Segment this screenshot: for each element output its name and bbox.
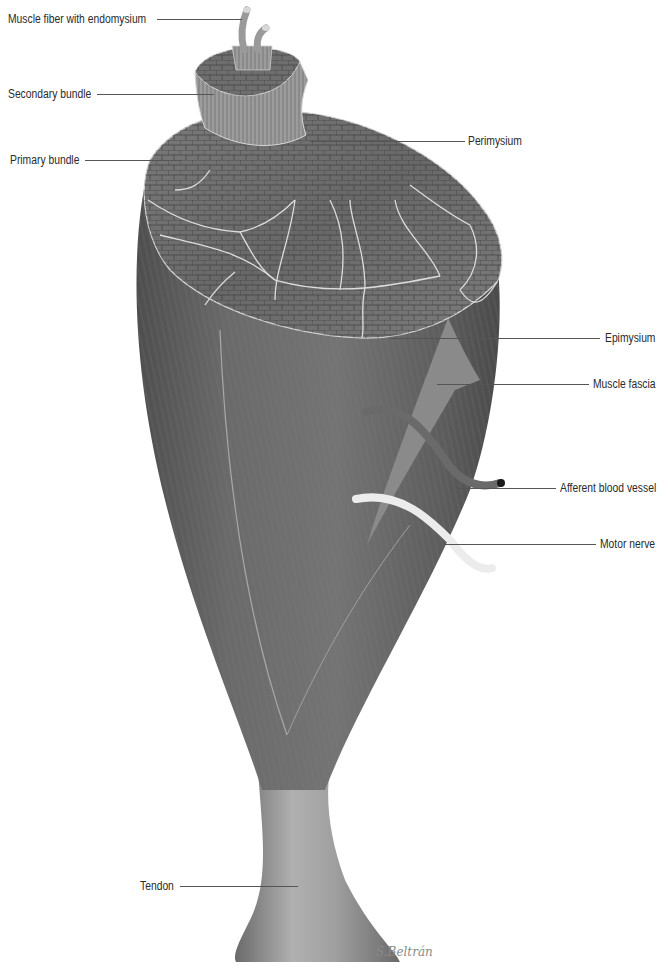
tendon-shape <box>235 770 400 962</box>
artist-signature: S.Beltrán <box>376 945 433 959</box>
leader-motor-nerve <box>444 544 596 545</box>
leader-secondary-bundle <box>97 94 214 95</box>
label-afferent-blood-vessel: Afferent blood vessel <box>560 481 656 495</box>
muscle-anatomy-figure: Muscle fiber with endomysium Secondary b… <box>0 0 669 972</box>
label-secondary-bundle: Secondary bundle <box>8 87 91 101</box>
fiber-end-1 <box>243 7 251 13</box>
label-motor-nerve: Motor nerve <box>600 537 655 551</box>
leader-muscle-fascia <box>437 384 589 385</box>
leader-epimysium <box>390 338 600 339</box>
muscle-fiber-1 <box>242 10 247 50</box>
leader-primary-bundle <box>85 160 180 161</box>
leader-perimysium <box>310 141 465 142</box>
leader-muscle-fiber <box>157 19 242 20</box>
label-primary-bundle: Primary bundle <box>10 153 79 167</box>
label-muscle-fiber: Muscle fiber with endomysium <box>8 12 146 26</box>
label-muscle-fascia: Muscle fascia <box>593 377 656 391</box>
leader-tendon <box>180 886 298 887</box>
fiber-stub-block <box>232 46 272 70</box>
fiber-end-2 <box>262 25 270 31</box>
vessel-lumen <box>497 479 505 487</box>
label-perimysium: Perimysium <box>468 134 522 148</box>
label-epimysium: Epimysium <box>605 331 655 345</box>
label-tendon: Tendon <box>140 879 174 893</box>
leader-afferent-blood-vessel <box>458 488 556 489</box>
